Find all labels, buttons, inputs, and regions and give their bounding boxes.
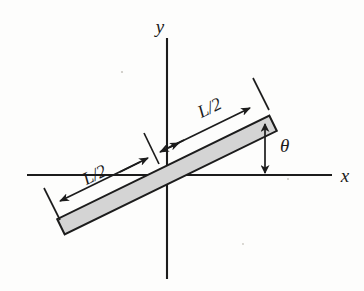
dimension-upper-inner-arrow [160, 140, 184, 152]
dimension-label-upper: L/2 [193, 93, 224, 122]
dimension-label-lower: L/2 [78, 160, 109, 189]
x-axis-label: x [340, 165, 350, 186]
dimension-line-lower-inner [120, 158, 148, 172]
scan-speck [242, 243, 244, 245]
diagram-canvas: y x θ L/2 L/2 [0, 0, 364, 291]
theta-label: θ [280, 135, 289, 156]
scan-speck [121, 71, 123, 73]
y-axis-label: y [154, 16, 165, 37]
scan-speck [287, 178, 289, 180]
inner-arrow-shaft [160, 140, 184, 152]
physics-diagram-figure: y x θ L/2 L/2 [0, 0, 364, 291]
left-end-tick-mark [44, 188, 60, 220]
right-end-tick-mark [253, 78, 269, 110]
